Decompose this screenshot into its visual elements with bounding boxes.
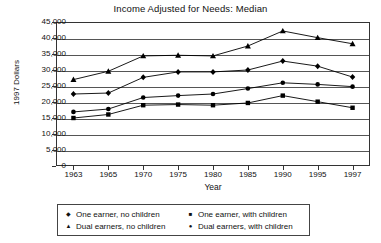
circle-data-point xyxy=(350,84,355,89)
diamond-data-point xyxy=(315,63,320,69)
square-data-point xyxy=(106,112,110,116)
triangle-data-point xyxy=(105,68,111,73)
x-tick-mark xyxy=(248,166,249,170)
square-data-point xyxy=(141,103,145,107)
x-tick-mark xyxy=(353,166,354,170)
square-data-point xyxy=(211,103,215,107)
x-tick-mark xyxy=(143,166,144,170)
triangle-data-point xyxy=(280,28,286,33)
diamond-data-point xyxy=(245,67,250,73)
x-axis-title: Year xyxy=(56,182,370,192)
circle-data-point xyxy=(71,110,76,115)
diamond-data-point xyxy=(175,69,180,75)
square-marker-icon xyxy=(186,210,195,218)
legend-label: Dual earners, with children xyxy=(198,222,293,231)
square-data-point xyxy=(315,99,319,103)
square-data-point xyxy=(246,101,250,105)
legend-row: Dual earners, no children Dual earners, … xyxy=(64,220,303,232)
circle-data-point xyxy=(211,92,216,97)
square-data-point xyxy=(281,93,285,97)
legend-label: One earner, with children xyxy=(198,210,287,219)
series-layer xyxy=(56,22,370,166)
circle-data-point xyxy=(141,95,146,100)
diamond-data-point xyxy=(71,91,76,97)
series-line xyxy=(73,83,352,112)
circle-data-point xyxy=(280,81,285,86)
chart-title: Income Adjusted for Needs: Median xyxy=(0,3,381,14)
diamond-marker-icon xyxy=(64,210,73,218)
circle-data-point xyxy=(176,93,181,98)
legend-item-one-earner-no-children: One earner, no children xyxy=(64,210,186,219)
square-data-point xyxy=(350,106,354,110)
legend-item-dual-earners-no-children: Dual earners, no children xyxy=(64,222,186,231)
diamond-data-point xyxy=(350,74,355,80)
square-data-point xyxy=(176,102,180,106)
y-tick-mark xyxy=(52,166,56,167)
x-tick-label: 1997 xyxy=(333,170,373,179)
circle-data-point xyxy=(246,86,251,91)
chart-legend: One earner, no children One earner, with… xyxy=(57,204,310,236)
series-diamond xyxy=(71,58,356,97)
diamond-data-point xyxy=(210,69,215,75)
legend-label: One earner, no children xyxy=(76,210,160,219)
x-tick-mark xyxy=(108,166,109,170)
circle-data-point xyxy=(106,107,111,112)
circle-data-point xyxy=(315,82,320,87)
x-tick-mark xyxy=(318,166,319,170)
x-tick-mark xyxy=(283,166,284,170)
diamond-data-point xyxy=(106,90,111,96)
triangle-marker-icon xyxy=(64,222,73,230)
x-tick-mark xyxy=(213,166,214,170)
series-line xyxy=(73,61,352,94)
square-data-point xyxy=(71,116,75,120)
legend-row: One earner, no children One earner, with… xyxy=(64,208,303,220)
income-line-chart: Income Adjusted for Needs: Median 1997 D… xyxy=(0,0,381,243)
triangle-data-point xyxy=(245,43,251,48)
x-tick-mark xyxy=(73,166,74,170)
legend-item-one-earner-with-children: One earner, with children xyxy=(186,210,303,219)
legend-label: Dual earners, no children xyxy=(76,222,165,231)
diamond-data-point xyxy=(141,74,146,80)
diamond-data-point xyxy=(280,58,285,64)
circle-marker-icon xyxy=(186,222,195,230)
x-tick-mark xyxy=(178,166,179,170)
legend-item-dual-earners-with-children: Dual earners, with children xyxy=(186,222,303,231)
series-circle xyxy=(71,81,355,115)
